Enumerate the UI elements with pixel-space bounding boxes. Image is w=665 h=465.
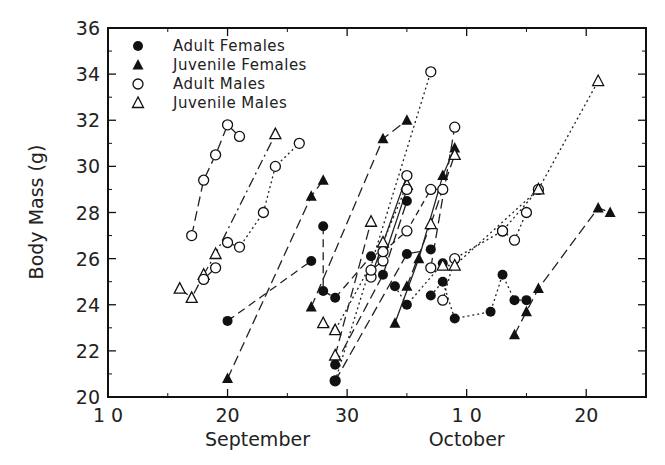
filled-circle-icon bbox=[223, 316, 233, 326]
legend-label: Juvenile Females bbox=[172, 56, 307, 74]
y-axis-title: Body Mass (g) bbox=[25, 145, 47, 280]
y-tick-label: 30 bbox=[76, 155, 100, 177]
filled-circle-icon bbox=[133, 41, 143, 51]
open-circle-icon bbox=[211, 263, 221, 273]
open-triangle-icon bbox=[210, 248, 221, 259]
chart: 202224262830323436 1 020301 020 Body Mas… bbox=[0, 0, 665, 465]
filled-circle-icon bbox=[366, 251, 376, 261]
series-line bbox=[335, 249, 431, 381]
series-line bbox=[443, 81, 598, 266]
open-triangle-icon bbox=[377, 236, 388, 247]
open-circle-icon bbox=[258, 208, 268, 218]
filled-circle-icon bbox=[402, 196, 412, 206]
open-circle-icon bbox=[223, 120, 233, 130]
open-circle-icon bbox=[366, 265, 376, 275]
filled-triangle-icon bbox=[133, 59, 144, 70]
filled-triangle-icon bbox=[389, 317, 400, 328]
open-circle-icon bbox=[438, 295, 448, 305]
filled-circle-icon bbox=[330, 376, 340, 386]
open-circle-icon bbox=[426, 184, 436, 194]
open-circle-icon bbox=[509, 235, 519, 245]
open-triangle-icon bbox=[186, 292, 197, 303]
month-label: September bbox=[205, 428, 310, 450]
legend: Adult FemalesJuvenile FemalesAdult Males… bbox=[133, 37, 307, 112]
filled-circle-icon bbox=[330, 360, 340, 370]
open-circle-icon bbox=[223, 237, 233, 247]
legend-item: Adult Females bbox=[133, 37, 285, 55]
open-circle-icon bbox=[426, 67, 436, 77]
legend-item: Juvenile Males bbox=[133, 94, 288, 112]
series-line bbox=[443, 189, 539, 300]
filled-circle-icon bbox=[498, 270, 508, 280]
open-circle-icon bbox=[378, 247, 388, 257]
data-series bbox=[180, 72, 610, 381]
month-labels: SeptemberOctober bbox=[205, 428, 505, 450]
y-tick-label: 32 bbox=[76, 109, 100, 131]
legend-label: Adult Males bbox=[173, 75, 266, 93]
filled-circle-icon bbox=[521, 295, 531, 305]
x-tick-label: 20 bbox=[574, 404, 598, 426]
y-tick-label: 36 bbox=[76, 17, 100, 39]
open-triangle-icon bbox=[593, 75, 604, 86]
filled-circle-icon bbox=[318, 221, 328, 231]
series-line bbox=[228, 180, 324, 378]
open-circle-icon bbox=[402, 226, 412, 236]
series-line bbox=[228, 143, 300, 247]
filled-circle-icon bbox=[402, 300, 412, 310]
series-line bbox=[335, 72, 431, 381]
open-circle-icon bbox=[378, 256, 388, 266]
filled-circle-icon bbox=[426, 244, 436, 254]
filled-triangle-icon bbox=[509, 329, 520, 340]
filled-circle-icon bbox=[330, 293, 340, 303]
open-circle-icon bbox=[235, 131, 245, 141]
filled-circle-icon bbox=[306, 256, 316, 266]
open-circle-icon bbox=[199, 274, 209, 284]
filled-circle-icon bbox=[509, 295, 519, 305]
filled-circle-icon bbox=[450, 314, 460, 324]
open-circle-icon bbox=[450, 122, 460, 132]
open-circle-icon bbox=[235, 242, 245, 252]
y-tick-label: 28 bbox=[76, 202, 100, 224]
filled-circle-icon bbox=[402, 249, 412, 259]
open-circle-icon bbox=[402, 171, 412, 181]
x-tick-label: 1 0 bbox=[452, 404, 482, 426]
open-triangle-icon bbox=[330, 349, 341, 360]
filled-circle-icon bbox=[390, 281, 400, 291]
filled-circle-icon bbox=[426, 291, 436, 301]
open-circle-icon bbox=[199, 175, 209, 185]
filled-triangle-icon bbox=[533, 283, 544, 294]
open-circle-icon bbox=[211, 150, 221, 160]
series-line bbox=[228, 261, 312, 321]
open-circle-icon bbox=[498, 226, 508, 236]
filled-triangle-icon bbox=[318, 174, 329, 185]
filled-triangle-icon bbox=[222, 373, 233, 384]
x-tick-label: 1 0 bbox=[93, 404, 123, 426]
filled-circle-icon bbox=[318, 286, 328, 296]
open-circle-icon bbox=[438, 184, 448, 194]
y-tick-label: 26 bbox=[76, 248, 100, 270]
filled-triangle-icon bbox=[593, 202, 604, 213]
open-triangle-icon bbox=[366, 216, 377, 227]
filled-triangle-icon bbox=[306, 301, 317, 312]
month-label: October bbox=[429, 428, 505, 450]
filled-triangle-icon bbox=[605, 207, 616, 218]
filled-circle-icon bbox=[378, 270, 388, 280]
open-circle-icon bbox=[270, 161, 280, 171]
open-triangle-icon bbox=[318, 317, 329, 328]
filled-triangle-icon bbox=[306, 190, 317, 201]
open-triangle-icon bbox=[133, 97, 144, 108]
filled-triangle-icon bbox=[413, 253, 424, 264]
x-tick-label: 30 bbox=[335, 404, 359, 426]
y-tick-label: 22 bbox=[76, 340, 100, 362]
filled-triangle-icon bbox=[401, 114, 412, 125]
legend-label: Juvenile Males bbox=[172, 94, 287, 112]
x-tick-label: 20 bbox=[215, 404, 239, 426]
legend-item: Adult Males bbox=[133, 75, 266, 93]
filled-circle-icon bbox=[438, 277, 448, 287]
y-axis: 202224262830323436 bbox=[76, 17, 646, 408]
legend-item: Juvenile Females bbox=[133, 56, 307, 74]
filled-triangle-icon bbox=[377, 133, 388, 144]
series-line bbox=[335, 222, 371, 356]
series-line bbox=[311, 120, 407, 307]
open-triangle-icon bbox=[174, 283, 185, 294]
